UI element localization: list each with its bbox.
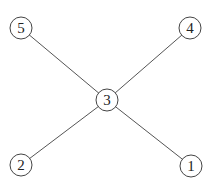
edge-3-1 (107, 100, 191, 166)
node-label: 3 (103, 92, 111, 108)
nodes-group: 12345 (10, 17, 202, 177)
node-label: 1 (187, 158, 195, 174)
node-label: 2 (17, 157, 25, 173)
node-3: 3 (96, 89, 118, 111)
node-label: 5 (17, 20, 25, 36)
edge-3-2 (21, 100, 107, 165)
node-2: 2 (10, 154, 32, 176)
graph-canvas: 12345 (0, 0, 221, 194)
edge-3-4 (107, 28, 190, 100)
graph-svg: 12345 (0, 0, 221, 194)
edge-3-5 (21, 28, 107, 100)
node-4: 4 (179, 17, 201, 39)
node-label: 4 (186, 20, 194, 36)
node-5: 5 (10, 17, 32, 39)
node-1: 1 (180, 155, 202, 177)
